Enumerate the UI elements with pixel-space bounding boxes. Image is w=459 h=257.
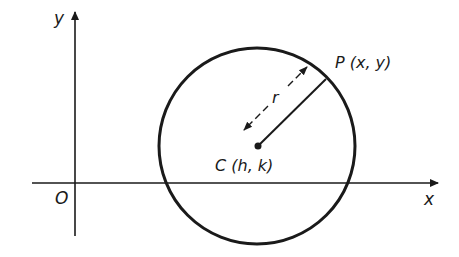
center-c-label: C (h, k)	[215, 158, 273, 174]
y-axis-label: y	[54, 10, 64, 27]
point-p-label: P (x, y)	[335, 55, 391, 71]
radius-line	[258, 79, 326, 146]
circle-diagram	[0, 0, 459, 257]
x-axis-label: x	[424, 191, 434, 208]
center-point	[255, 143, 262, 150]
radius-dimension-lower	[244, 106, 268, 130]
radius-dimension-upper	[288, 67, 307, 86]
origin-label: O	[55, 190, 68, 207]
radius-label: r	[272, 90, 279, 106]
